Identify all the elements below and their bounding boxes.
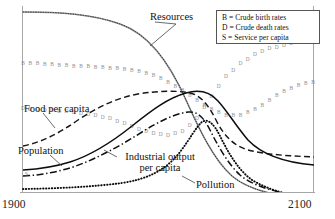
svg-text:B: B	[36, 60, 40, 66]
svg-text:B: B	[268, 97, 272, 103]
svg-text:B: B	[94, 64, 98, 70]
svg-text:D: D	[239, 60, 243, 66]
svg-text:D: D	[181, 128, 185, 134]
legend-item-death-rates: D = Crude death rates	[222, 23, 319, 33]
svg-text:D: D	[166, 132, 170, 138]
svg-text:B: B	[231, 112, 235, 118]
svg-text:B: B	[130, 67, 134, 73]
series-crude-death-rates-markers: DDDDDDDDDDDDDDDDDDDDDDDDDDDDDDDDDDDDDDDD…	[21, 38, 315, 138]
svg-text:B: B	[260, 102, 264, 108]
svg-text:B: B	[86, 63, 90, 69]
svg-text:D: D	[144, 128, 148, 134]
svg-text:D: D	[275, 44, 279, 50]
svg-text:B: B	[195, 97, 199, 103]
x-axis-tick-start: 1900	[2, 198, 26, 210]
legend: B = Crude birth rates D = Crude death ra…	[216, 10, 320, 44]
service-per-capita-marker: S	[25, 171, 28, 177]
svg-text:B: B	[275, 92, 279, 98]
label-pollution: Pollution	[196, 180, 235, 191]
svg-text:D: D	[123, 120, 127, 126]
label-industrial-line2: per capita	[139, 162, 180, 173]
svg-text:D: D	[231, 67, 235, 73]
svg-text:D: D	[94, 112, 98, 118]
svg-text:B: B	[289, 85, 293, 91]
svg-text:D: D	[115, 118, 119, 124]
svg-text:D: D	[217, 83, 221, 89]
label-industrial-line1: Industrial output	[125, 151, 195, 162]
svg-text:B: B	[239, 112, 243, 118]
svg-text:B: B	[253, 106, 257, 112]
label-resources: Resources	[150, 12, 193, 23]
world3-chart: DDDDDDDDDDDDDDDDDDDDDDDDDDDDDDDDDDDDDDDD…	[0, 0, 335, 219]
svg-text:B: B	[108, 65, 112, 71]
svg-text:B: B	[50, 61, 54, 67]
svg-text:B: B	[297, 82, 301, 88]
svg-text:D: D	[268, 45, 272, 51]
svg-text:D: D	[253, 51, 257, 57]
leader-line-pollution	[182, 176, 195, 183]
svg-text:B: B	[282, 88, 286, 94]
svg-text:B: B	[115, 65, 119, 71]
label-industrial-output-per-capita: Industrial output per capita	[118, 152, 202, 173]
svg-text:D: D	[188, 122, 192, 128]
svg-text:B: B	[28, 60, 32, 66]
svg-text:B: B	[152, 72, 156, 78]
svg-text:D: D	[108, 115, 112, 121]
label-population: Population	[18, 146, 64, 157]
svg-text:D: D	[246, 56, 250, 62]
svg-text:D: D	[159, 131, 163, 137]
leader-line-resources-2	[150, 24, 176, 46]
svg-text:D: D	[152, 130, 156, 136]
svg-text:B: B	[43, 61, 47, 67]
svg-text:B: B	[79, 63, 83, 69]
svg-text:B: B	[246, 109, 250, 115]
svg-text:B: B	[137, 68, 141, 74]
legend-item-service-per-capita: S = Service per capita	[222, 33, 319, 43]
svg-text:D: D	[260, 48, 264, 54]
svg-text:B: B	[72, 63, 76, 69]
svg-text:B: B	[173, 83, 177, 89]
leader-line-food	[43, 113, 55, 128]
x-axis-tick-end: 2100	[288, 198, 312, 210]
legend-item-birth-rates: B = Crude birth rates	[222, 13, 319, 23]
svg-text:B: B	[304, 80, 308, 86]
svg-text:D: D	[101, 114, 105, 120]
svg-text:D: D	[173, 130, 177, 136]
svg-text:B: B	[101, 64, 105, 70]
svg-text:B: B	[21, 60, 25, 66]
svg-text:D: D	[224, 73, 228, 79]
svg-text:B: B	[217, 109, 221, 115]
svg-text:B: B	[57, 62, 61, 68]
svg-text:D: D	[137, 126, 141, 132]
svg-text:B: B	[144, 70, 148, 76]
svg-text:B: B	[311, 79, 315, 85]
svg-text:B: B	[123, 66, 127, 72]
svg-text:B: B	[159, 75, 163, 81]
svg-text:B: B	[166, 79, 170, 85]
label-food-per-capita: Food per capita	[24, 104, 89, 115]
svg-text:B: B	[65, 62, 69, 68]
